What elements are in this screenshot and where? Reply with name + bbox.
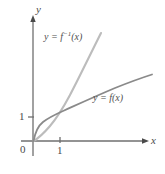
origin-label: 0	[20, 144, 26, 155]
x-axis-arrowhead	[142, 138, 149, 143]
y-axis-arrowhead	[30, 15, 35, 22]
curve-label-f-inverse-suffix: (x)	[71, 31, 82, 42]
x-axis-label: x	[151, 135, 156, 146]
y-axis-tick-label-1: 1	[19, 111, 25, 122]
curve-f	[34, 75, 153, 142]
x-axis-tick-label-1: 1	[57, 145, 63, 156]
inverse-function-graph-figure: y x 0 1 1 y = f−1(x) y = f(x)	[0, 0, 165, 174]
curve-f-inverse	[34, 33, 102, 141]
curve-label-f-inverse: y = f−1(x)	[44, 31, 82, 42]
curve-label-f-inverse-prefix: y = f	[44, 31, 63, 42]
curve-label-f: y = f(x)	[93, 93, 123, 103]
curve-label-f-prefix: y = f	[93, 92, 112, 103]
curve-label-f-suffix: (x)	[112, 92, 123, 103]
y-axis-label: y	[36, 4, 41, 15]
curve-label-f-inverse-exponent: −1	[63, 30, 71, 38]
